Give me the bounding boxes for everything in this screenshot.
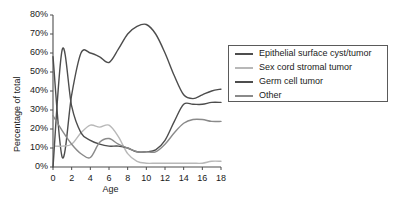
x-tick-label: 12	[155, 173, 175, 183]
y-tick-label: 60%	[14, 47, 48, 57]
legend-line-swatch	[235, 53, 253, 55]
axes	[53, 15, 221, 167]
x-tick-label: 4	[80, 173, 100, 183]
x-tick-label: 10	[136, 173, 156, 183]
x-tick-label: 16	[192, 173, 212, 183]
data-series-line	[53, 48, 221, 167]
legend-line-swatch	[235, 67, 253, 69]
data-series-group	[53, 24, 221, 167]
chart-legend: Epithelial surface cyst/tumorSex cord st…	[228, 45, 388, 102]
legend-label: Germ cell tumor	[259, 75, 323, 88]
y-tick-label: 20%	[14, 123, 48, 133]
data-series-line	[53, 125, 221, 164]
x-tick-label: 14	[174, 173, 194, 183]
legend-item[interactable]: Sex cord stromal tumor	[235, 61, 387, 74]
y-tick-label: 80%	[14, 9, 48, 19]
legend-line-swatch	[235, 81, 253, 83]
x-axis-title: Age	[0, 184, 221, 194]
y-tick-label: 0%	[14, 161, 48, 171]
y-tick-label: 70%	[14, 28, 48, 38]
legend-label: Sex cord stromal tumor	[259, 61, 352, 74]
x-tick-label: 6	[99, 173, 119, 183]
y-tick-label: 30%	[14, 104, 48, 114]
x-tick-label: 0	[43, 173, 63, 183]
y-tick-label: 10%	[14, 142, 48, 152]
legend-label: Epithelial surface cyst/tumor	[259, 47, 372, 60]
data-series-line	[53, 24, 221, 158]
x-tick-label: 18	[211, 173, 231, 183]
y-tick-label: 50%	[14, 66, 48, 76]
legend-item[interactable]: Germ cell tumor	[235, 75, 387, 88]
legend-item[interactable]: Epithelial surface cyst/tumor	[235, 47, 387, 60]
chart-figure: Percentage of total Age 0%10%20%30%40%50…	[0, 0, 394, 202]
legend-line-swatch	[235, 95, 253, 97]
legend-item[interactable]: Other	[235, 89, 387, 102]
y-tick-label: 40%	[14, 85, 48, 95]
legend-label: Other	[259, 89, 282, 102]
x-tick-label: 2	[62, 173, 82, 183]
x-tick-label: 8	[118, 173, 138, 183]
